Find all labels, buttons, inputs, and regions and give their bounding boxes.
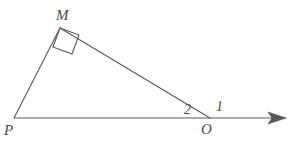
segment-PM: [14, 28, 60, 118]
figure-canvas: [0, 0, 295, 144]
vertex-label-o: O: [201, 122, 212, 137]
vertex-label-m: M: [56, 8, 69, 23]
angle-label-1: 1: [216, 100, 223, 114]
vertex-label-p: P: [4, 123, 13, 138]
geometry-figure: M P O 1 2: [0, 0, 295, 144]
angle-label-2: 2: [184, 103, 191, 117]
